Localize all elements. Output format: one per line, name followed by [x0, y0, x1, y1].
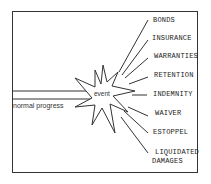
- label-retention: RETENTION: [154, 71, 194, 80]
- label-bonds: BONDS: [153, 16, 175, 25]
- line-waiver: [128, 107, 148, 116]
- label-estoppel: ESTOPPEL: [153, 128, 188, 137]
- label-liquidated: LIQUIDATED: [155, 148, 199, 157]
- label-insurance: INSURANCE: [152, 34, 192, 43]
- line-warranties: [125, 58, 148, 78]
- event-consequences-diagram: normal progress event BONDS INSURANCE WA…: [0, 0, 211, 184]
- label-damages: DAMAGES: [152, 157, 183, 166]
- event-label: event: [94, 90, 110, 97]
- line-liquidated-damages: [121, 117, 148, 153]
- line-retention: [129, 77, 148, 84]
- label-waiver: WAIVER: [155, 109, 181, 118]
- label-warranties: WARRANTIES: [154, 52, 198, 61]
- label-indemnity: INDEMNITY: [153, 90, 193, 99]
- normal-progress-label: normal progress: [13, 102, 64, 109]
